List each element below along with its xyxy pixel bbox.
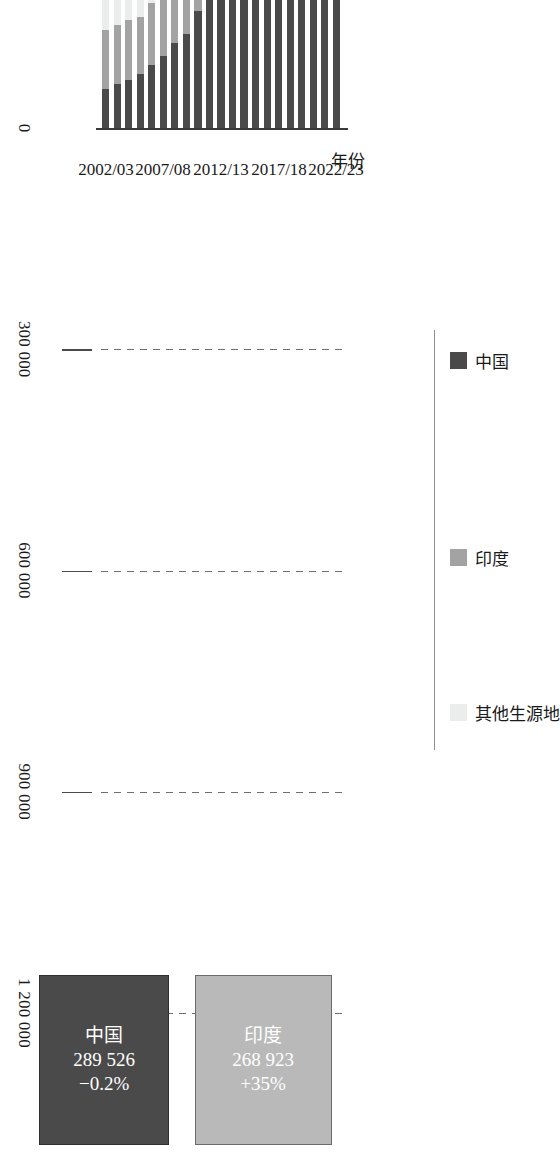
bar-row [171,0,178,128]
bar-segment-china [194,11,201,128]
legend-label: 印度 [475,545,509,570]
gridline [100,571,342,572]
bar-segment-china [137,74,144,128]
bar-row [252,0,259,128]
bar-segment-china [240,0,247,128]
bar-segment-china [287,0,294,128]
legend-label: 其他生源地 [475,700,560,725]
bar-row [160,0,167,128]
bar-row [298,0,305,128]
bar-row [310,0,317,128]
value-axis-label: 600 000 [14,542,34,599]
callout-india: 印度268 923+35% [195,975,332,1145]
bar-segment-china [229,0,236,128]
value-axis-tick-long [62,571,92,572]
bar-segment-india [160,0,167,56]
bar-segment-india [194,0,201,11]
bar-segment-china [206,0,213,128]
bar-segment-china [217,0,224,128]
category-axis-label: 2012/13 [193,160,249,180]
bar-segment-other [102,0,109,30]
value-axis-label: 900 000 [14,763,34,820]
callout-name: 中国 [73,1024,135,1048]
callout-change: −0.2% [73,1072,135,1096]
category-axis-title: 年份 [331,147,365,172]
bar-segment-china [160,56,167,128]
bar-segment-china [264,0,271,128]
bar-row [229,0,236,128]
bar-segment-china [125,80,132,128]
legend-item-india[interactable]: 印度 [450,545,509,570]
axis-baseline [96,128,348,130]
legend-swatch-china [450,352,467,369]
value-axis-label: 300 000 [14,321,34,378]
bar-row [333,0,340,128]
bar-row [125,0,132,128]
callout-name: 印度 [233,1024,295,1048]
gridline [100,349,342,350]
callout-change: +35% [233,1072,295,1096]
callout-text: 中国289 526−0.2% [73,1024,135,1096]
value-axis-label: 1 200 000 [14,978,34,1048]
bar-segment-china [298,0,305,128]
bar-segment-india [114,26,121,85]
legend-item-other[interactable]: 其他生源地 [450,700,560,725]
legend-divider [434,330,435,750]
bar-segment-china [183,34,190,128]
bar-segment-india [137,17,144,74]
bar-segment-china [148,65,155,128]
bar-segment-china [321,0,328,128]
bar-segment-china [114,85,121,129]
callout-china: 中国289 526−0.2% [39,975,169,1145]
bar-segment-other [125,0,132,20]
category-axis-label: 2017/18 [251,160,307,180]
bar-segment-china [102,89,109,128]
category-axis-label: 2002/03 [78,160,134,180]
bar-segment-india [125,20,132,80]
bar-row [114,0,121,128]
bar-segment-china [333,0,340,128]
callout-value: 268 923 [233,1048,295,1072]
legend-item-china[interactable]: 中国 [450,348,509,373]
bar-row [240,0,247,128]
bar-row [287,0,294,128]
bar-segment-india [183,0,190,34]
bar-row [264,0,271,128]
legend-label: 中国 [475,348,509,373]
value-axis-tick-long [62,349,92,350]
bar-row [206,0,213,128]
bar-row [102,0,109,128]
bar-row [137,0,144,128]
bar-segment-other [137,0,144,17]
bar-row [275,0,282,128]
bar-row [148,0,155,128]
bar-row [194,0,201,128]
bar-segment-china [252,0,259,128]
gridline [100,792,342,793]
bar-segment-china [171,43,178,128]
bar-row [321,0,328,128]
bar-row [183,0,190,128]
legend-swatch-other [450,704,467,721]
bar-row [217,0,224,128]
legend-swatch-india [450,549,467,566]
category-axis-label: 2007/08 [136,160,192,180]
bar-segment-india [171,0,178,43]
value-axis-label: 0 [14,124,34,133]
bar-segment-india [102,30,109,89]
callout-value: 289 526 [73,1048,135,1072]
bar-segment-other [148,0,155,3]
bar-segment-other [114,0,121,26]
callout-text: 印度268 923+35% [233,1024,295,1096]
bar-segment-china [310,0,317,128]
bar-segment-china [275,0,282,128]
bar-segment-india [148,3,155,65]
value-axis-tick-long [62,792,92,793]
